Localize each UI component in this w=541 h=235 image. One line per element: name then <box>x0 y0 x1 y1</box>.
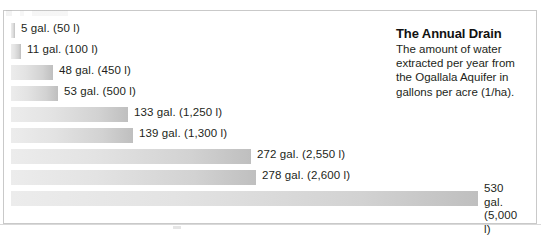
bar-value-label: 272 gal. (2,550 l) <box>257 147 345 162</box>
bar-value-label: 48 gal. (450 l) <box>59 63 131 78</box>
bar-value-label: 530 gal. (5,000 l) <box>484 182 517 235</box>
caption-block: The Annual Drain The amount of water ext… <box>396 26 524 99</box>
bar <box>11 170 256 185</box>
chart-figure: 5 gal. (50 l)11 gal. (100 l)48 gal. (450… <box>0 0 541 235</box>
bar <box>11 149 251 164</box>
bar-value-label: 11 gal. (100 l) <box>27 42 98 57</box>
bar-value-label: 133 gal. (1,250 l) <box>134 105 222 120</box>
bar <box>11 65 53 80</box>
bar <box>11 86 58 101</box>
bar-value-label: 5 gal. (50 l) <box>21 21 80 36</box>
bar-value-label: 139 gal. (1,300 l) <box>139 126 227 141</box>
bar <box>11 191 478 206</box>
bar <box>11 107 128 122</box>
caption-title: The Annual Drain <box>396 26 524 41</box>
bar-value-label: 278 gal. (2,600 l) <box>262 168 350 183</box>
bar-value-label: 53 gal. (500 l) <box>64 84 136 99</box>
caption-body: The amount of water extracted per year f… <box>396 42 524 99</box>
bar <box>11 44 21 59</box>
bar <box>11 128 133 143</box>
bar <box>11 23 15 38</box>
